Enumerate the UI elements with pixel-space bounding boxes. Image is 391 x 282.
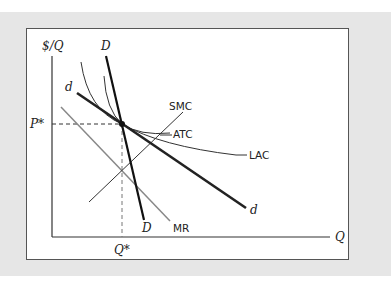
market-demand-curve	[106, 56, 144, 220]
smc-label: SMC	[169, 101, 192, 112]
atc-label: ATC	[173, 129, 193, 140]
market-demand-label-top: D	[101, 40, 111, 52]
y-axis-label: $/Q	[42, 40, 64, 52]
quantity-label: Q*	[114, 244, 130, 256]
atc-curve	[104, 76, 170, 134]
firm-demand-label-top: d	[65, 81, 73, 93]
x-axis-label: Q	[335, 231, 345, 243]
market-demand-label-bottom: D	[142, 222, 152, 234]
price-label: P*	[30, 118, 44, 130]
lac-label: LAC	[249, 150, 269, 161]
mr-label: MR	[173, 223, 189, 234]
firm-demand-label-bottom: d	[250, 204, 258, 216]
lac-curve	[81, 62, 236, 155]
equilibrium-point	[119, 121, 125, 127]
